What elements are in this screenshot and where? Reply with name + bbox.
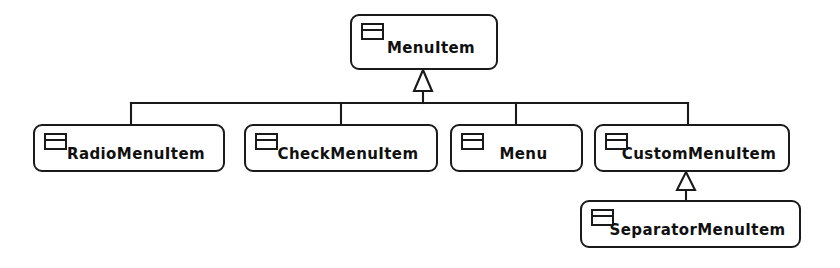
uml-class-icon <box>591 209 614 226</box>
class-node-label: SeparatorMenuItem <box>582 210 799 239</box>
class-node-checkmenuitem[interactable]: CheckMenuItem <box>244 124 438 172</box>
uml-class-icon <box>361 23 384 40</box>
uml-class-diagram: MenuItem RadioMenuItem CheckMenuItem Men… <box>0 0 840 268</box>
uml-class-icon <box>461 133 484 150</box>
class-node-custommenuitem[interactable]: CustomMenuItem <box>594 124 790 172</box>
class-node-menu[interactable]: Menu <box>450 124 583 172</box>
generalization-arrowhead-menuitem <box>414 70 432 91</box>
class-node-menuitem[interactable]: MenuItem <box>350 14 498 70</box>
class-node-separatormenuitem[interactable]: SeparatorMenuItem <box>580 200 801 248</box>
uml-class-icon <box>255 133 278 150</box>
uml-class-icon <box>44 133 67 150</box>
generalization-arrowhead-custommenuitem <box>677 172 695 190</box>
uml-class-icon <box>605 133 628 150</box>
class-node-radiomenuitem[interactable]: RadioMenuItem <box>33 124 225 172</box>
